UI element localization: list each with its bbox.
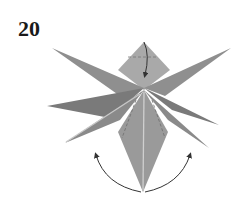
origami-diagram — [0, 0, 243, 207]
